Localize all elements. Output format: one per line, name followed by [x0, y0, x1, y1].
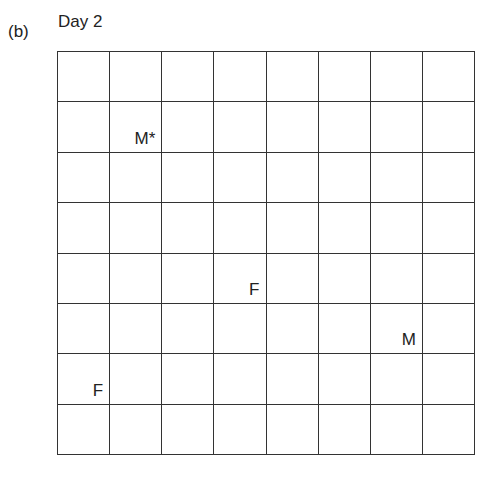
- grid-cell: [267, 102, 319, 152]
- marker-male-star: M*: [134, 130, 155, 147]
- grid-cell: [423, 405, 475, 455]
- grid-cell: [110, 52, 162, 102]
- grid-cell: [423, 102, 475, 152]
- grid-cell: [162, 203, 214, 253]
- grid-cell: [162, 102, 214, 152]
- grid-cell: [58, 254, 110, 304]
- grid-cell: [319, 304, 371, 354]
- grid-cell: [423, 203, 475, 253]
- grid-cell: [110, 203, 162, 253]
- grid-cell: [371, 405, 423, 455]
- grid-cell: F: [214, 254, 266, 304]
- grid-cell: [267, 304, 319, 354]
- grid-cell: [214, 153, 266, 203]
- grid-cell: [162, 254, 214, 304]
- grid-cell: [371, 254, 423, 304]
- grid-cell: [110, 153, 162, 203]
- grid-cell: [162, 153, 214, 203]
- grid-cell: [162, 405, 214, 455]
- grid-cell: [319, 52, 371, 102]
- grid-cell: [319, 102, 371, 152]
- grid-cell: [371, 354, 423, 404]
- grid-cell: [58, 102, 110, 152]
- grid-cell: [214, 52, 266, 102]
- grid-cell: [267, 203, 319, 253]
- grid-cell: M*: [110, 102, 162, 152]
- grid-cell: [110, 354, 162, 404]
- grid-cell: [214, 102, 266, 152]
- marker-female: F: [93, 382, 103, 399]
- grid-cell: [110, 304, 162, 354]
- marker-female: F: [249, 281, 259, 298]
- grid-cell: [58, 304, 110, 354]
- grid-cell: [371, 203, 423, 253]
- grid-cell: [423, 254, 475, 304]
- grid-cell: [267, 354, 319, 404]
- grid-cell: [319, 405, 371, 455]
- grid-cell: [214, 405, 266, 455]
- grid-cell: [371, 153, 423, 203]
- grid-cell: [267, 153, 319, 203]
- grid-cell: [371, 52, 423, 102]
- grid-cell: [214, 304, 266, 354]
- grid-cell: [267, 254, 319, 304]
- grid-cell: [319, 354, 371, 404]
- grid-cell: [162, 52, 214, 102]
- grid-cell: [110, 405, 162, 455]
- grid-cell: [423, 354, 475, 404]
- grid-cell: [371, 102, 423, 152]
- marker-male: M: [402, 331, 416, 348]
- grid-cell: [214, 354, 266, 404]
- panel-label: (b): [8, 22, 29, 42]
- grid-cell: [162, 304, 214, 354]
- grid-cell: [319, 203, 371, 253]
- grid-cell: [267, 405, 319, 455]
- grid-cell: [58, 153, 110, 203]
- grid-cell: [110, 254, 162, 304]
- grid-cell: [58, 52, 110, 102]
- grid-cell: [214, 203, 266, 253]
- grid-cell: [319, 153, 371, 203]
- grid-cell: [319, 254, 371, 304]
- grid-cell: [423, 304, 475, 354]
- grid-cell: F: [58, 354, 110, 404]
- grid-cell: [267, 52, 319, 102]
- grid-cell: M: [371, 304, 423, 354]
- grid-cell: [58, 405, 110, 455]
- diagram-title: Day 2: [58, 12, 102, 32]
- grid-cell: [58, 203, 110, 253]
- grid: M*FMF: [57, 51, 475, 455]
- grid-cell: [423, 52, 475, 102]
- grid-cell: [423, 153, 475, 203]
- grid-cell: [162, 354, 214, 404]
